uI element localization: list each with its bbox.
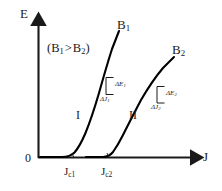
x-axis-label: J <box>203 150 208 163</box>
curve-label-b1: B1 <box>117 18 130 31</box>
condition-b2: B <box>73 41 81 55</box>
condition-b1: B <box>51 41 59 55</box>
curve-label-b2: B2 <box>172 43 185 56</box>
condition-close-paren: ) <box>85 41 89 55</box>
figure-canvas <box>0 0 222 191</box>
curve-label-b1-sub: 1 <box>126 23 130 33</box>
delta-j2-label: ΔJ2 <box>151 104 161 111</box>
region-label-ii: II <box>129 109 137 121</box>
condition-annotation: (B1>B2) <box>47 42 90 55</box>
curve-label-b2-sub: 2 <box>181 48 185 58</box>
condition-operator: > <box>64 41 73 55</box>
delta-j2-sub: 2 <box>158 106 160 111</box>
slope-triangle-2 <box>157 87 165 104</box>
curve-label-b1-text: B <box>117 17 126 32</box>
y-axis-label: E <box>20 7 28 20</box>
delta-e1-sub: 1 <box>123 83 125 88</box>
origin-label: 0 <box>25 152 31 164</box>
delta-e2-label: ΔE2 <box>166 90 177 97</box>
ej-characteristic-figure: E J 0 (B1>B2) B1 B2 I II ΔE1 ΔJ1 ΔE2 ΔJ2… <box>0 0 222 191</box>
delta-j1-label: ΔJ1 <box>100 96 110 103</box>
region-label-i: I <box>76 109 80 121</box>
slope-triangle-1 <box>106 78 114 95</box>
tick-label-jc1: Jc1 <box>64 166 75 177</box>
delta-e1-label: ΔE1 <box>115 81 126 88</box>
tick-label-jc2-sub: c2 <box>105 170 112 179</box>
delta-e2-sub: 2 <box>174 92 176 97</box>
tick-label-jc2: Jc2 <box>101 166 112 177</box>
tick-label-jc1-sub: c1 <box>68 170 75 179</box>
delta-j1-sub: 1 <box>107 98 109 103</box>
curve-label-b2-text: B <box>172 42 181 57</box>
